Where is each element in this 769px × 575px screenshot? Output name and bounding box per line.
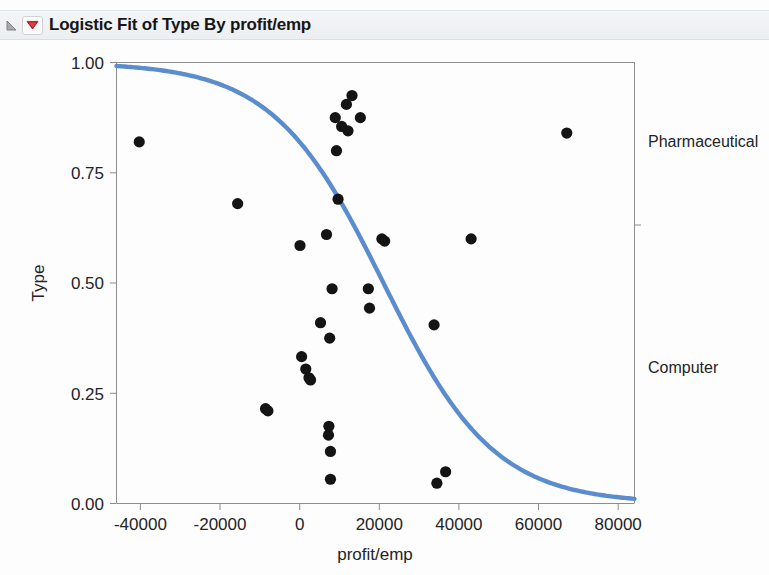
- x-tick-label: 40000: [435, 515, 482, 534]
- x-tick-group: [140, 504, 618, 511]
- data-point[interactable]: [331, 145, 342, 156]
- logistic-fit-curve: [117, 66, 635, 499]
- data-point[interactable]: [232, 198, 243, 209]
- y-tick-label: 0.50: [71, 274, 104, 293]
- data-point[interactable]: [326, 283, 337, 294]
- logistic-fit-report: Logistic Fit of Type By profit/emp: [0, 0, 769, 575]
- y-tick-group: [110, 63, 117, 504]
- scatter-points-layer: [134, 90, 573, 489]
- category-label-pharmaceutical: Pharmaceutical: [648, 133, 758, 150]
- data-point[interactable]: [355, 112, 366, 123]
- data-point[interactable]: [466, 233, 477, 244]
- report-title-bar: Logistic Fit of Type By profit/emp: [0, 10, 769, 40]
- plot-frame: [117, 62, 635, 504]
- data-point[interactable]: [379, 236, 390, 247]
- x-tick-label: 80000: [595, 515, 642, 534]
- data-point[interactable]: [561, 127, 572, 138]
- y-tick-label: 1.00: [71, 54, 104, 73]
- y-axis-title: Type: [29, 265, 48, 302]
- data-point[interactable]: [325, 474, 336, 485]
- x-tick-label: 60000: [515, 515, 562, 534]
- data-point[interactable]: [346, 90, 357, 101]
- data-point[interactable]: [342, 125, 353, 136]
- x-tick-label: 0: [295, 515, 304, 534]
- x-tick-label: -40000: [114, 515, 167, 534]
- data-point[interactable]: [363, 283, 374, 294]
- y-tick-label: 0.25: [71, 385, 104, 404]
- data-point[interactable]: [296, 351, 307, 362]
- data-point[interactable]: [134, 136, 145, 147]
- data-point[interactable]: [364, 303, 375, 314]
- right-category-axis: Pharmaceutical Computer: [635, 133, 759, 376]
- data-point[interactable]: [321, 229, 332, 240]
- x-axis: -40000 -20000 0 20000 40000 60000 80000 …: [114, 504, 642, 565]
- data-point[interactable]: [262, 405, 273, 416]
- data-point[interactable]: [431, 478, 442, 489]
- logistic-fit-plot: 1.00 0.75 0.50 0.25 0.00 Type -400: [0, 40, 769, 575]
- triangle-collapse-icon[interactable]: [0, 11, 22, 39]
- red-triangle-menu-icon[interactable]: [22, 16, 43, 35]
- data-point[interactable]: [332, 194, 343, 205]
- category-label-computer: Computer: [648, 359, 719, 376]
- data-point[interactable]: [324, 333, 335, 344]
- data-point[interactable]: [305, 374, 316, 385]
- x-tick-label: -20000: [194, 515, 247, 534]
- x-axis-title: profit/emp: [337, 545, 413, 564]
- y-axis: 1.00 0.75 0.50 0.25 0.00 Type: [29, 54, 117, 514]
- page-title: Logistic Fit of Type By profit/emp: [49, 15, 311, 35]
- x-tick-label: 20000: [356, 515, 403, 534]
- chart-canvas: 1.00 0.75 0.50 0.25 0.00 Type -400: [0, 40, 769, 575]
- data-point[interactable]: [323, 421, 334, 432]
- y-tick-label: 0.75: [71, 164, 104, 183]
- data-point[interactable]: [440, 466, 451, 477]
- data-point[interactable]: [315, 317, 326, 328]
- y-tick-label: 0.00: [71, 495, 104, 514]
- data-point[interactable]: [294, 240, 305, 251]
- data-point[interactable]: [428, 319, 439, 330]
- data-point[interactable]: [325, 446, 336, 457]
